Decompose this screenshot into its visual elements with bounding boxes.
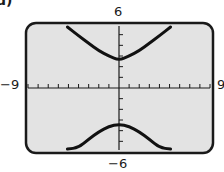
graph-screen xyxy=(0,0,224,172)
